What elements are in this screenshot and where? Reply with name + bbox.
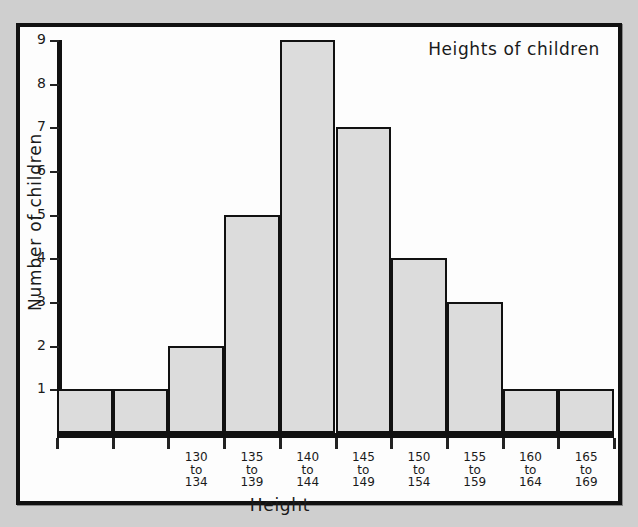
x-axis-tick-label-line: 159 <box>447 476 503 489</box>
x-axis-tick-label: 165to169 <box>558 451 614 489</box>
y-axis-tick-label: 8 <box>24 75 46 91</box>
x-axis-tick-label: 145to149 <box>335 451 391 489</box>
x-axis-tick <box>112 438 115 449</box>
x-axis-tick-label-line: 165 <box>558 451 614 464</box>
x-axis-tick-label: 150to154 <box>391 451 447 489</box>
x-axis-tick <box>613 438 616 449</box>
x-axis-tick-label-line: 134 <box>168 476 224 489</box>
x-axis-tick-label-line: 164 <box>502 476 558 489</box>
bar <box>391 258 447 433</box>
x-axis-tick-label: 135to139 <box>224 451 280 489</box>
x-axis-tick-label-line: 144 <box>280 476 336 489</box>
x-axis-tick-label: 140to144 <box>280 451 336 489</box>
x-axis-tick <box>167 438 170 449</box>
x-axis-tick <box>446 438 449 449</box>
y-axis-tick-label: 6 <box>24 162 46 178</box>
y-axis-tick-label: 1 <box>24 380 46 396</box>
bar <box>558 389 614 433</box>
x-axis-tick <box>223 438 226 449</box>
y-axis-tick-label: 9 <box>24 31 46 47</box>
x-axis-tick-label-line: 160 <box>502 451 558 464</box>
x-axis-title: Height <box>180 495 380 515</box>
x-axis-tick-label-line: 139 <box>224 476 280 489</box>
x-axis-tick-label: 130to134 <box>168 451 224 489</box>
y-axis-tick-label: 2 <box>24 337 46 353</box>
x-axis-tick-label-line: 145 <box>335 451 391 464</box>
bar <box>113 389 169 433</box>
x-axis-tick <box>279 438 282 449</box>
x-axis-tick-label: 160to164 <box>502 451 558 489</box>
x-axis-tick-label-line: 130 <box>168 451 224 464</box>
bar <box>168 346 224 433</box>
x-axis-tick-label-line: 154 <box>391 476 447 489</box>
bar <box>447 302 503 433</box>
y-axis-tick-label: 7 <box>24 118 46 134</box>
x-axis-tick <box>502 438 505 449</box>
y-axis-tick-label: 3 <box>24 293 46 309</box>
x-axis-tick-label: 155to159 <box>447 451 503 489</box>
plot-area: Heights of children Number of children 1… <box>20 27 618 501</box>
x-axis-tick-label-line: 135 <box>224 451 280 464</box>
x-axis-tick <box>390 438 393 449</box>
y-axis-tick-label: 5 <box>24 206 46 222</box>
x-axis-tick-label-line: 140 <box>280 451 336 464</box>
chart-card: Heights of children Number of children 1… <box>16 23 622 505</box>
x-axis-tick-label-line: 150 <box>391 451 447 464</box>
y-axis-tick-label: 4 <box>24 249 46 265</box>
bar <box>224 215 280 433</box>
bar <box>57 389 113 433</box>
bar <box>503 389 559 433</box>
bar-series <box>57 40 614 433</box>
x-axis-tick <box>557 438 560 449</box>
x-axis-tick <box>56 438 59 449</box>
x-axis-tick-label-line: 169 <box>558 476 614 489</box>
x-axis-tick <box>335 438 338 449</box>
x-axis-tick-label-line: 149 <box>335 476 391 489</box>
bar <box>336 127 392 433</box>
bar <box>280 40 336 433</box>
x-axis-tick-label-line: 155 <box>447 451 503 464</box>
